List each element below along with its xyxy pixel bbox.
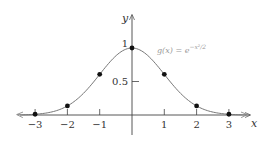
- x-tick-label: 1: [161, 119, 167, 130]
- x-tick-label: 3: [226, 119, 232, 130]
- y-tick-label: 0.5: [112, 76, 128, 87]
- data-point: [97, 72, 102, 77]
- data-point: [227, 112, 232, 117]
- data-point: [194, 104, 199, 109]
- x-tick-label: −1: [92, 119, 107, 130]
- data-point: [130, 46, 135, 51]
- x-tick-label: −2: [60, 119, 75, 130]
- x-tick-label: 2: [193, 119, 199, 130]
- data-point: [162, 72, 167, 77]
- data-point: [65, 104, 70, 109]
- y-tick-label: 1: [122, 38, 128, 49]
- x-tick-label: −3: [28, 119, 43, 130]
- gaussian-plot: x y −3−2−11230.51 g(x) = e−x²/2: [0, 0, 273, 147]
- y-axis-label: y: [121, 12, 129, 25]
- x-axis-label: x: [251, 117, 258, 130]
- data-point: [33, 112, 38, 117]
- function-label: g(x) = e−x²/2: [157, 43, 206, 55]
- tick-labels: −3−2−11230.51: [28, 38, 232, 130]
